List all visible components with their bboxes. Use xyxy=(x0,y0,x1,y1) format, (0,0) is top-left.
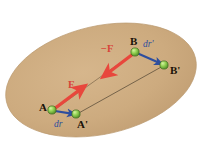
label-displacement-dr-prime: dr' xyxy=(143,40,153,50)
physics-diagram-figure: A A' B B' F −F dr dr' xyxy=(0,0,205,161)
node-A-prime xyxy=(72,110,80,118)
label-point-a: A xyxy=(39,102,47,113)
label-displacement-dr: dr xyxy=(54,120,62,130)
label-point-b-prime: B' xyxy=(170,65,180,76)
rigid-body-shape xyxy=(0,6,205,155)
node-B xyxy=(131,48,139,56)
node-A xyxy=(48,106,56,114)
label-force-minus-f: −F xyxy=(101,44,113,55)
label-point-b: B xyxy=(130,36,137,47)
label-force-f: F xyxy=(68,80,74,91)
label-point-a-prime: A' xyxy=(77,119,88,130)
diagram-canvas xyxy=(0,0,205,161)
node-B-prime xyxy=(160,61,168,69)
